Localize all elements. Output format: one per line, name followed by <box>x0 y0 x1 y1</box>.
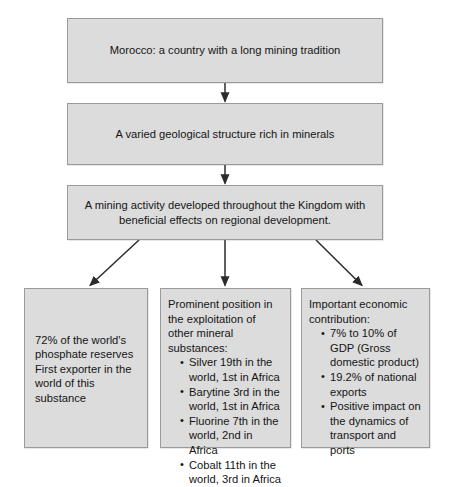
node-phosphate-reserves-text: 72% of the world's phosphate reserves Fi… <box>32 333 140 406</box>
node-phosphate-line2: phosphate reserves <box>35 348 133 360</box>
node-geological-structure-text: A varied geological structure rich in mi… <box>116 127 335 142</box>
arrow-activity-to-phosphate <box>90 240 139 286</box>
node-economic-contribution-lead: Important economic contribution: <box>309 297 422 326</box>
node-mining-tradition[interactable]: Morocco: a country with a long mining tr… <box>67 18 383 83</box>
node-phosphate-line3: First exporter in the <box>35 363 131 375</box>
arrow-activity-to-economic <box>316 240 362 286</box>
list-item: 19.2% of national exports <box>321 370 422 399</box>
node-mineral-substances[interactable]: Prominent position in the exploitation o… <box>160 288 291 448</box>
node-phosphate-line1: 72% of the world's <box>35 334 126 346</box>
node-economic-contribution[interactable]: Important economic contribution: 7% to 1… <box>301 288 430 448</box>
list-item: Cobalt 11th in the world, 3rd in Africa <box>180 458 283 487</box>
node-phosphate-reserves[interactable]: 72% of the world's phosphate reserves Fi… <box>24 288 148 448</box>
list-item: Silver 19th in the world, 1st in Africa <box>180 355 283 384</box>
node-phosphate-line4: world of this substance <box>35 377 95 404</box>
node-mineral-substances-lead: Prominent position in the exploitation o… <box>168 297 283 355</box>
node-mining-activity-line2: beneficial effects on regional developme… <box>119 214 331 226</box>
list-item: Fluorine 7th in the world, 2nd in Africa <box>180 414 283 458</box>
list-item: Barytine 3rd in the world, 1st in Africa <box>180 385 283 414</box>
list-item: 7% to 10% of GDP (Gross domestic product… <box>321 326 422 370</box>
list-item: Positive impact on the dynamics of trans… <box>321 399 422 457</box>
economic-contribution-list: 7% to 10% of GDP (Gross domestic product… <box>309 326 422 457</box>
node-geological-structure[interactable]: A varied geological structure rich in mi… <box>67 103 383 165</box>
node-mining-activity[interactable]: A mining activity developed throughout t… <box>67 185 383 240</box>
node-mining-tradition-text: Morocco: a country with a long mining tr… <box>110 43 341 58</box>
node-mining-activity-line1: A mining activity developed throughout t… <box>85 199 365 211</box>
node-mining-activity-text: A mining activity developed throughout t… <box>78 198 372 227</box>
mineral-substances-list: Silver 19th in the world, 1st in Africa … <box>168 355 283 486</box>
